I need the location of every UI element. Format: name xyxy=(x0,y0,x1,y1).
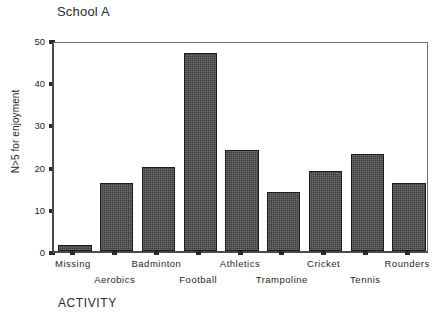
y-tick-label: 20 xyxy=(19,163,45,174)
bar-cricket xyxy=(309,171,342,251)
x-tick-label-athletics: Athletics xyxy=(220,258,260,269)
bar-athletics xyxy=(225,150,258,251)
y-tick-label: 0 xyxy=(19,247,45,258)
x-tick-label-badminton: Badminton xyxy=(131,258,181,269)
x-tick-label-aerobics: Aerobics xyxy=(94,274,135,285)
x-tick-label-football: Football xyxy=(179,274,217,285)
x-tick-mark xyxy=(112,251,117,255)
plot-area xyxy=(52,42,428,253)
x-tick-mark xyxy=(154,251,159,255)
bar-football xyxy=(184,53,217,251)
x-tick-mark xyxy=(321,251,326,255)
chart-title: School A xyxy=(57,4,110,19)
bar-badminton xyxy=(142,167,175,251)
bar-chart-figure: School A N>5 for enjoyment ACTIVITY 0102… xyxy=(0,0,446,320)
x-tick-label-trampoline: Trampoline xyxy=(256,274,308,285)
y-tick-label: 10 xyxy=(19,205,45,216)
y-tick-label: 40 xyxy=(19,78,45,89)
bar-aerobics xyxy=(100,183,133,251)
x-tick-mark xyxy=(238,251,243,255)
x-tick-mark xyxy=(405,251,410,255)
x-tick-mark xyxy=(196,251,201,255)
x-tick-label-cricket: Cricket xyxy=(307,258,340,269)
x-tick-mark xyxy=(70,251,75,255)
bar-rounders xyxy=(392,183,425,251)
y-tick-label: 30 xyxy=(19,120,45,131)
bars-container xyxy=(54,43,427,251)
x-tick-label-rounders: Rounders xyxy=(385,258,430,269)
x-tick-mark xyxy=(279,251,284,255)
x-tick-mark xyxy=(363,251,368,255)
x-tick-label-tennis: Tennis xyxy=(350,274,380,285)
bar-tennis xyxy=(351,154,384,251)
bar-trampoline xyxy=(267,192,300,251)
x-tick-label-missing: Missing xyxy=(55,258,91,269)
y-tick-label: 50 xyxy=(19,36,45,47)
x-axis-title: ACTIVITY xyxy=(58,296,117,310)
